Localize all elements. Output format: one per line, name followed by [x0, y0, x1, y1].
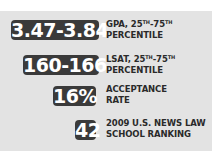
- stat-label-line2: RATE: [106, 95, 167, 106]
- stats-panel: 3.47-3.84 GPA, 25TH-75TH PERCENTILE 160-…: [0, 11, 212, 151]
- stat-label-line2: PERCENTILE: [106, 65, 175, 76]
- stat-label-line1: LSAT, 25TH-75TH: [106, 52, 175, 65]
- stat-label-line1: GPA, 25TH-75TH: [106, 17, 172, 30]
- stat-label: 2009 U.S. NEWS LAW SCHOOL RANKING: [106, 118, 206, 140]
- stat-label: LSAT, 25TH-75TH PERCENTILE: [106, 52, 175, 76]
- stat-label: GPA, 25TH-75TH PERCENTILE: [106, 17, 172, 41]
- stat-label-line1: 2009 U.S. NEWS LAW: [106, 118, 206, 129]
- stat-value-badge: 160-166: [23, 55, 99, 75]
- stat-label-line1: ACCEPTANCE: [106, 84, 167, 95]
- stat-value-badge: 16%: [53, 86, 96, 106]
- stat-label: ACCEPTANCE RATE: [106, 84, 167, 106]
- stat-label-line2: PERCENTILE: [106, 30, 172, 41]
- stat-value-badge: 42: [75, 120, 96, 140]
- stat-value-badge: 3.47-3.84: [11, 20, 99, 40]
- stat-label-line2: SCHOOL RANKING: [106, 129, 206, 140]
